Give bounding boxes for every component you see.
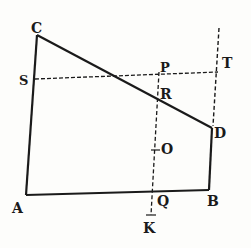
dashed-line-ST — [35, 72, 218, 79]
label-B: B — [207, 193, 219, 209]
line-CD — [37, 35, 212, 128]
label-O: O — [161, 141, 173, 157]
dashed-line-T-vertical — [213, 28, 219, 126]
label-D: D — [214, 125, 226, 141]
label-A: A — [11, 200, 24, 216]
label-K: K — [143, 220, 156, 236]
label-C: C — [31, 20, 42, 36]
label-S: S — [19, 73, 28, 88]
line-BA — [26, 190, 209, 195]
diagram-canvas: C S P T R D O A Q B K — [0, 0, 251, 248]
label-P: P — [160, 60, 170, 75]
label-Q: Q — [157, 193, 169, 209]
label-T: T — [222, 55, 233, 71]
line-DB — [209, 128, 212, 190]
label-R: R — [160, 86, 172, 102]
line-AC — [26, 35, 37, 195]
